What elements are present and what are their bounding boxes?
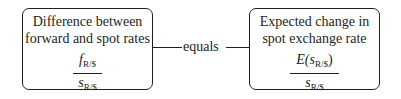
left-numerator: fR/$ [73, 52, 102, 74]
forward-spot-difference-box: Difference between forward and spot rate… [22, 8, 153, 90]
left-fraction: fR/$ sR/$ [73, 52, 102, 96]
right-title-line2: spot exchange rate [250, 30, 379, 47]
connector-line-left [153, 47, 182, 48]
left-box-title: Difference between forward and spot rate… [23, 13, 152, 47]
right-numerator: E(sR/$) [290, 52, 338, 74]
left-num-sub: R/$ [83, 59, 96, 69]
right-num-prefix: E( [296, 52, 309, 67]
right-num-sub: R/$ [315, 59, 328, 69]
right-fraction: E(sR/$) sR/$ [290, 52, 338, 96]
right-num-suffix: ) [328, 52, 333, 67]
right-title-line1: Expected change in [250, 13, 379, 30]
left-den-sub: R/$ [84, 82, 97, 92]
right-box-title: Expected change in spot exchange rate [250, 13, 379, 47]
connector-line-right [226, 47, 249, 48]
equals-label: equals [183, 38, 219, 55]
left-title-line1: Difference between [23, 13, 152, 30]
right-den-sub: R/$ [311, 82, 324, 92]
left-denominator: sR/$ [73, 74, 102, 96]
expected-change-box: Expected change in spot exchange rate E(… [249, 8, 380, 90]
right-denominator: sR/$ [290, 74, 338, 96]
left-title-line2: forward and spot rates [23, 30, 152, 47]
